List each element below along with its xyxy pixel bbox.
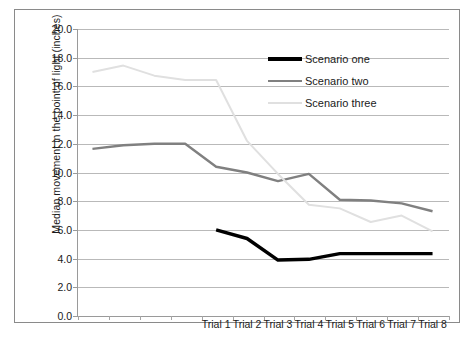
legend-item: Scenario two [267, 70, 437, 92]
legend-label: Scenario two [303, 75, 369, 87]
y-tick-label: 2.0 [57, 281, 72, 293]
x-axis-tick-labels: Trial 1Trial 2Trial 3Trial 4Trial 5Trial… [77, 318, 448, 338]
legend-line-icon [268, 57, 302, 60]
y-tick-label: 18.0 [52, 52, 72, 64]
legend-label: Scenario three [303, 97, 377, 109]
x-tick-label: Trial 7 [387, 318, 416, 330]
y-tick-label: 12.0 [52, 138, 72, 150]
x-tick-label: Trial 3 [264, 318, 293, 330]
legend-line-icon [268, 80, 302, 82]
series-line [216, 230, 432, 260]
y-tick-label: 6.0 [57, 224, 72, 236]
y-tick-label: 8.0 [57, 195, 72, 207]
legend-item: Scenario one [267, 48, 437, 70]
x-tick-label: Trial 2 [233, 318, 262, 330]
legend-line-icon [268, 102, 302, 104]
x-tick-label: Trial 5 [325, 318, 354, 330]
y-tick-label: 10.0 [52, 167, 72, 179]
chart-legend: Scenario oneScenario twoScenario three [267, 48, 437, 114]
legend-label: Scenario one [303, 53, 370, 65]
y-tick-label: 16.0 [52, 80, 72, 92]
x-tick-label: Trial 4 [294, 318, 323, 330]
y-tick-label: 4.0 [57, 253, 72, 265]
x-tick-mark [449, 316, 450, 320]
y-tick-label: 0.0 [57, 310, 72, 322]
y-tick-label: 20.0 [52, 23, 72, 35]
legend-swatch [267, 57, 303, 60]
x-tick-label: Trial 6 [356, 318, 385, 330]
x-tick-label: Trial 1 [202, 318, 231, 330]
legend-swatch [267, 102, 303, 104]
chart-figure: Median movement in the point of light (i… [14, 9, 460, 323]
y-tick-label: 14.0 [52, 109, 72, 121]
x-tick-label: Trial 8 [418, 318, 447, 330]
y-axis-tick-labels: 20.018.016.014.012.010.08.06.04.02.00.0 [31, 10, 77, 324]
legend-swatch [267, 80, 303, 82]
series-line [92, 144, 432, 211]
legend-item: Scenario three [267, 92, 437, 114]
